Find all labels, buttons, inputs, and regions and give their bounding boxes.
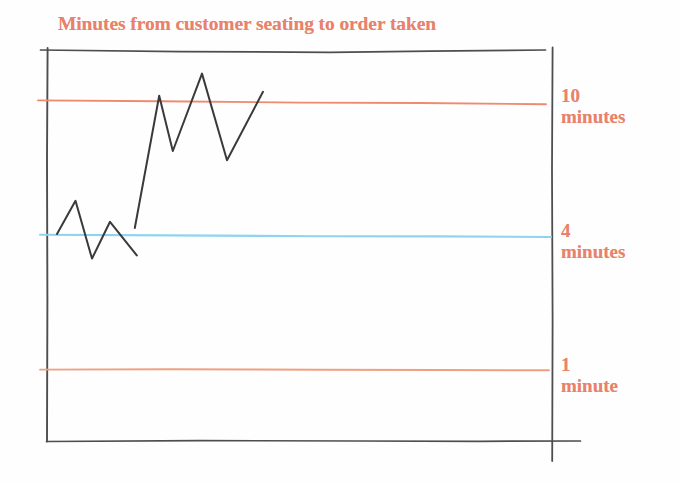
axis-label-lower-value: 1: [561, 354, 618, 375]
axis-label-lower-unit: minute: [561, 375, 618, 396]
axis-label-lower-limit: 1 minute: [561, 354, 618, 396]
axis-label-center-line: 4 minutes: [561, 220, 625, 262]
frame-right-axis: [552, 48, 553, 462]
chart-container: Minutes from customer seating to order t…: [0, 0, 680, 483]
axis-label-upper-value: 10: [561, 85, 625, 106]
data-series-order-taking-time: [57, 74, 263, 259]
chart-title: Minutes from customer seating to order t…: [58, 13, 528, 35]
upper-control-limit-line: [38, 100, 546, 104]
lower-control-limit-line: [40, 369, 549, 370]
data-series-segment-2: [135, 74, 263, 228]
axis-label-upper-unit: minutes: [561, 106, 625, 127]
data-series-segment-1: [57, 201, 137, 259]
axis-label-center-value: 4: [561, 220, 625, 241]
axis-label-center-unit: minutes: [561, 241, 625, 262]
center-line: [40, 235, 551, 237]
frame-top-line: [41, 50, 546, 52]
frame-bottom-line: [47, 441, 581, 442]
axis-frame: [41, 48, 581, 462]
axis-label-upper-limit: 10 minutes: [561, 85, 625, 127]
frame-left-axis: [47, 48, 48, 442]
